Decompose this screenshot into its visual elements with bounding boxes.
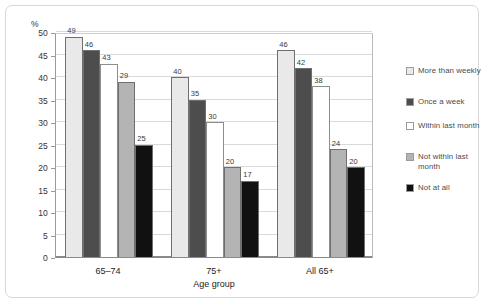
bar-value-label: 20 — [349, 157, 358, 166]
y-axis-tick-mark — [51, 56, 55, 57]
chart-figure: % 494643292540353020174642382420 More th… — [0, 0, 485, 304]
y-axis-tick-label: 35 — [0, 96, 48, 105]
bar — [118, 82, 136, 258]
bar — [100, 64, 118, 258]
bar-value-label: 35 — [191, 89, 200, 98]
bar — [135, 145, 153, 258]
legend-item-label: Once a week — [418, 97, 465, 107]
bar-value-label: 42 — [297, 58, 306, 67]
y-axis-tick-label: 25 — [0, 141, 48, 150]
x-axis-group-label: 65–74 — [58, 266, 158, 276]
bar-value-label: 17 — [243, 170, 252, 179]
bar — [295, 68, 313, 257]
y-axis-tick-label: 15 — [0, 186, 48, 195]
y-axis-tick-label: 50 — [0, 29, 48, 38]
bar — [312, 86, 330, 257]
bar — [206, 122, 224, 257]
y-axis-tick-mark — [51, 258, 55, 259]
bar — [347, 167, 365, 257]
legend-item[interactable]: Within last month — [406, 121, 482, 131]
x-axis-group-label: 75+ — [164, 266, 264, 276]
legend-item[interactable]: Not within last month — [406, 152, 482, 171]
y-axis-tick-mark — [51, 123, 55, 124]
bar-value-label: 25 — [137, 134, 146, 143]
y-axis-tick-label: 40 — [0, 74, 48, 83]
y-axis-tick-label: 30 — [0, 119, 48, 128]
bar — [277, 50, 295, 257]
legend-item-label: More than weekly — [418, 66, 481, 76]
legend-item-label: Within last month — [418, 121, 480, 131]
bar-value-label: 43 — [102, 53, 111, 62]
gridline — [56, 31, 372, 32]
bar-value-label: 24 — [332, 139, 341, 148]
legend-item[interactable]: Once a week — [406, 97, 482, 107]
x-axis-title: Age group — [134, 279, 294, 289]
bar — [330, 149, 348, 257]
bar — [224, 167, 242, 257]
y-axis-tick-mark — [51, 213, 55, 214]
legend-swatch-icon — [406, 98, 414, 106]
y-axis-tick-mark — [51, 33, 55, 34]
y-axis-tick-label: 10 — [0, 209, 48, 218]
y-axis-tick-mark — [51, 236, 55, 237]
plot-area: 494643292540353020174642382420 — [55, 33, 373, 258]
bar-value-label: 20 — [226, 157, 235, 166]
bar-value-label: 49 — [67, 26, 76, 35]
y-axis-tick-mark — [51, 146, 55, 147]
bar — [65, 37, 83, 258]
bar — [241, 181, 259, 258]
bar-value-label: 30 — [208, 112, 217, 121]
legend-swatch-icon — [406, 153, 414, 161]
y-axis-tick-label: 0 — [0, 254, 48, 263]
y-axis-tick-label: 5 — [0, 231, 48, 240]
y-axis-tick-label: 45 — [0, 51, 48, 60]
bar — [171, 77, 189, 257]
bar — [83, 50, 101, 257]
y-axis-tick-mark — [51, 78, 55, 79]
legend-item[interactable]: Not at all — [406, 183, 482, 193]
legend-item-label: Not within last month — [418, 152, 482, 171]
bar-value-label: 29 — [120, 71, 129, 80]
bar-value-label: 38 — [314, 76, 323, 85]
bar-value-label: 46 — [85, 40, 94, 49]
y-axis-tick-mark — [51, 101, 55, 102]
bar-value-label: 46 — [279, 40, 288, 49]
y-axis-tick-label: 20 — [0, 164, 48, 173]
legend-swatch-icon — [406, 122, 414, 130]
y-axis-tick-mark — [51, 191, 55, 192]
bar — [189, 100, 207, 258]
legend-swatch-icon — [406, 184, 414, 192]
y-axis-tick-mark — [51, 168, 55, 169]
legend-item-label: Not at all — [418, 183, 450, 193]
x-axis-group-label: All 65+ — [270, 266, 370, 276]
bar-value-label: 40 — [173, 67, 182, 76]
legend-swatch-icon — [406, 67, 414, 75]
legend-item[interactable]: More than weekly — [406, 66, 482, 76]
